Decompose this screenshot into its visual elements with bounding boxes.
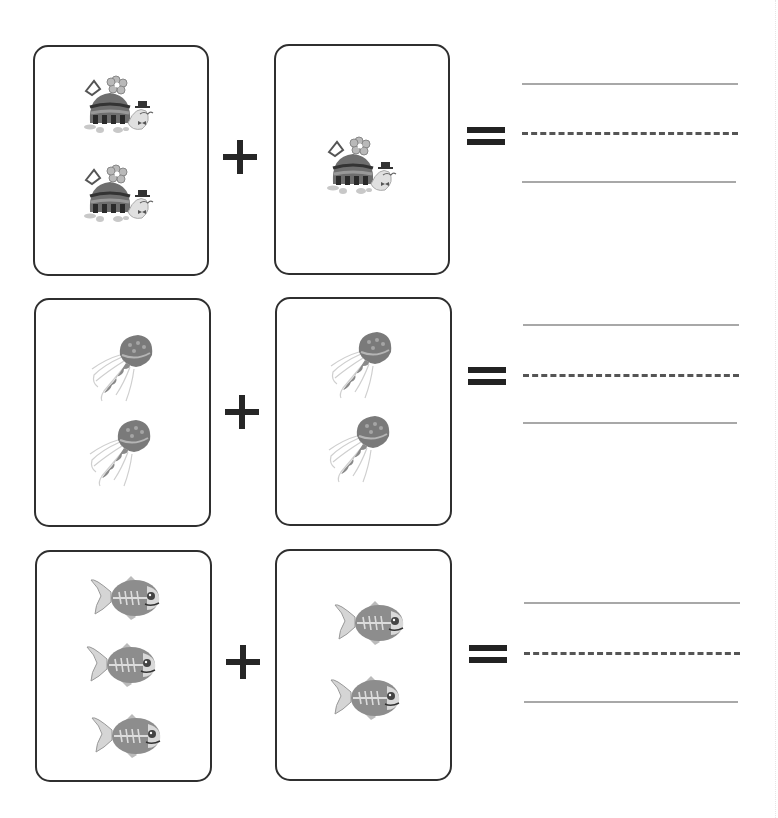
fish-icon — [329, 674, 405, 726]
page-edge-rule — [775, 0, 776, 818]
row3-right-card — [275, 549, 452, 781]
row1-right-card — [274, 44, 450, 275]
plus-sign — [226, 645, 260, 679]
jellyfish-icon — [323, 416, 395, 488]
answer-line-top — [524, 602, 740, 604]
turtle-icon — [80, 75, 160, 135]
answer-line-middle[interactable] — [524, 652, 740, 655]
plus-sign — [225, 395, 259, 429]
jellyfish-icon — [84, 420, 156, 492]
answer-line-bottom — [523, 422, 737, 424]
row3-left-card — [35, 550, 212, 782]
equals-sign — [469, 645, 507, 663]
answer-line-middle[interactable] — [522, 132, 738, 135]
equals-sign — [468, 367, 506, 385]
jellyfish-icon — [86, 335, 158, 407]
answer-line-bottom — [522, 181, 736, 183]
answer-line-middle[interactable] — [523, 374, 739, 377]
row2-left-card — [34, 298, 211, 527]
answer-line-bottom — [524, 701, 738, 703]
jellyfish-icon — [325, 332, 397, 404]
turtle-icon — [80, 164, 160, 224]
answer-line-top — [523, 324, 739, 326]
turtle-icon — [323, 136, 403, 196]
fish-icon — [89, 574, 165, 626]
fish-icon — [333, 599, 409, 651]
row1-left-card — [33, 45, 209, 276]
plus-sign — [223, 140, 257, 174]
answer-line-top — [522, 83, 738, 85]
row2-right-card — [275, 297, 452, 526]
equals-sign — [467, 127, 505, 145]
fish-icon — [90, 712, 166, 764]
fish-icon — [85, 641, 161, 693]
